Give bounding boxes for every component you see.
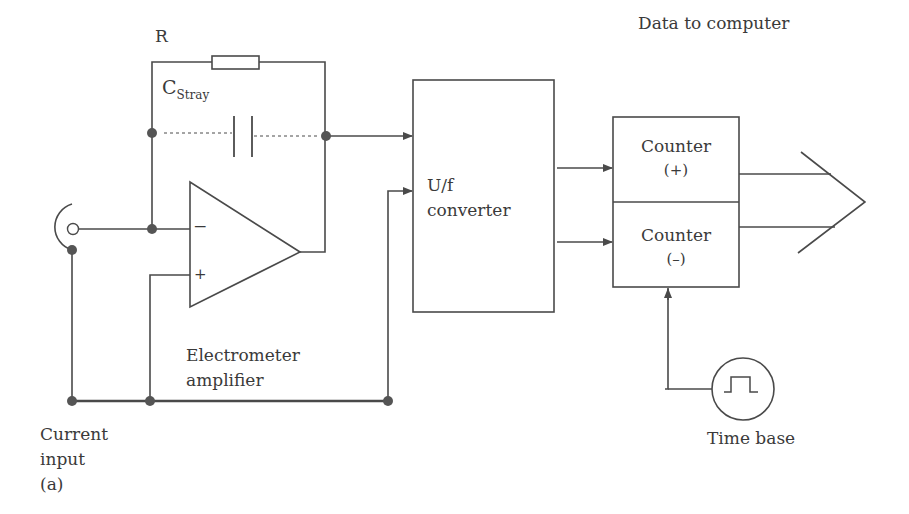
- current-input-label-line2: input: [40, 449, 85, 470]
- stray-capacitor-label: CStray: [162, 77, 209, 101]
- counter-minus-label-line1: Counter: [613, 225, 739, 246]
- data-bus-arrow: [739, 152, 865, 253]
- stray-capacitor-main: C: [162, 76, 177, 98]
- circuit-diagram: R CStray − + Electrometer amplifier U/f …: [0, 0, 909, 514]
- opamp-plus-label: +: [194, 264, 207, 285]
- input-connector-symbol: [55, 204, 79, 401]
- stray-capacitor-subscript: Stray: [177, 88, 210, 102]
- amplifier-label-line2: amplifier: [186, 370, 264, 391]
- uf-converter-box: [413, 80, 554, 312]
- counter-minus-label-line2: (–): [613, 249, 739, 270]
- stray-capacitor-symbol: [164, 116, 320, 157]
- opamp-minus-label: −: [193, 216, 207, 237]
- pulse-icon: [724, 377, 758, 392]
- counter-plus-label-line2: (+): [613, 160, 739, 181]
- current-input-label-line1: Current: [40, 424, 108, 445]
- time-base-label: Time base: [707, 428, 795, 449]
- converter-label-line1: U/f: [427, 175, 453, 196]
- amplifier-label-line1: Electrometer: [186, 345, 300, 366]
- panel-tag: (a): [40, 474, 63, 495]
- counter-plus-label-line1: Counter: [613, 136, 739, 157]
- opamp-symbol: [78, 182, 300, 401]
- time-base-circle: [712, 358, 774, 420]
- converter-label-line2: converter: [427, 200, 511, 221]
- resistor-label: R: [155, 26, 168, 47]
- data-to-computer-label: Data to computer: [638, 13, 789, 34]
